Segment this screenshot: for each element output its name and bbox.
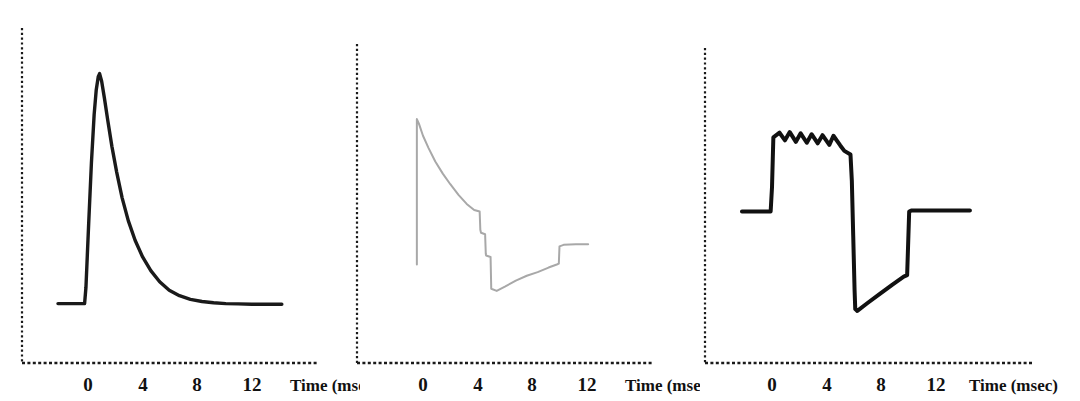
panel-c-xaxis-label: Time (msec) — [969, 376, 1058, 395]
panel-b-plot: 0 4 8 12 Time (msec) — [340, 0, 700, 401]
panel-c-plot: 0 4 8 12 Time (msec) — [688, 0, 1080, 401]
panel-a-xtick-4: 4 — [138, 374, 148, 395]
panel-a-xtick-12: 12 — [243, 374, 262, 395]
panel-a-xtick-0: 0 — [83, 374, 93, 395]
panel-b-xtick-8: 8 — [527, 374, 537, 395]
panel-b: 0 4 8 12 Time (msec) — [340, 0, 700, 401]
panel-b-xtick-4: 4 — [473, 374, 483, 395]
panel-c-xtick-12: 12 — [927, 374, 946, 395]
panel-a-trace-group — [58, 74, 282, 305]
waveform-figure: 0 4 8 12 Time (msec) 0 4 8 12 Time ( — [0, 0, 1080, 401]
panel-c-xtick-0: 0 — [767, 374, 777, 395]
panel-c-xtick-4: 4 — [822, 374, 832, 395]
panel-c-tick-labels: 0 4 8 12 — [767, 374, 945, 395]
panel-b-xtick-0: 0 — [418, 374, 428, 395]
panel-b-trace-group — [417, 119, 588, 291]
panel-b-trace — [417, 119, 588, 291]
panel-c-xtick-8: 8 — [876, 374, 886, 395]
panel-a-tick-labels: 0 4 8 12 — [83, 374, 261, 395]
panel-a: 0 4 8 12 Time (msec) — [0, 0, 360, 401]
panel-c-trace-group — [742, 132, 970, 311]
panel-b-xtick-12: 12 — [578, 374, 597, 395]
panel-b-tick-labels: 0 4 8 12 — [418, 374, 596, 395]
panel-a-axes — [22, 28, 318, 363]
panel-b-axes — [357, 44, 653, 363]
panel-a-trace — [58, 74, 282, 305]
panel-c: 0 4 8 12 Time (msec) — [688, 0, 1080, 401]
panel-a-xtick-8: 8 — [192, 374, 202, 395]
panel-a-plot: 0 4 8 12 Time (msec) — [0, 0, 360, 401]
panel-c-trace — [742, 132, 970, 311]
panel-c-axes — [705, 48, 1033, 363]
